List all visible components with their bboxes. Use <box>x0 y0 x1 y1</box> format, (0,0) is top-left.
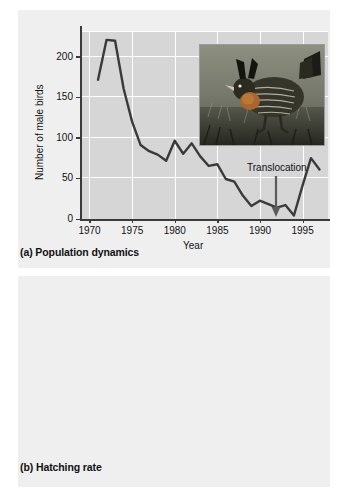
x-tick-a-1980 <box>175 219 176 223</box>
y-tick-a-0 <box>76 219 80 220</box>
translocation-annotation-label: Translocation <box>247 162 307 173</box>
translocation-arrow-icon <box>269 176 283 218</box>
x-axis-line-a <box>80 219 330 221</box>
line-path-male-birds <box>98 40 319 216</box>
x-axis-title-a: Year <box>183 240 203 251</box>
caption-panel-a: (a) Population dynamics <box>20 246 139 258</box>
y-ticklabel-a-200: 200 <box>42 51 73 62</box>
x-tick-a-1990 <box>260 219 261 223</box>
x-ticklabel-a-1980: 1980 <box>159 225 190 236</box>
x-ticklabel-a-1990: 1990 <box>245 225 276 236</box>
y-ticklabel-a-100: 100 <box>42 132 73 143</box>
y-tick-a-50 <box>76 178 80 179</box>
y-axis-title-a: Number of male birds <box>34 84 45 180</box>
y-axis-line-a <box>80 26 82 221</box>
x-tick-a-1985 <box>217 219 218 223</box>
population-line-series <box>81 32 328 219</box>
y-ticklabel-a-150: 150 <box>42 91 73 102</box>
x-tick-a-1995 <box>303 219 304 223</box>
x-ticklabel-a-1975: 1975 <box>117 225 148 236</box>
x-ticklabel-a-1995: 1995 <box>287 225 318 236</box>
y-tick-a-100 <box>76 137 80 138</box>
y-tick-a-200 <box>76 56 80 57</box>
panel-a-population-dynamics: Translocation 0 50 100 150 200 1970 1975… <box>18 10 330 268</box>
y-ticklabel-a-50: 50 <box>42 172 73 183</box>
x-ticklabel-a-1985: 1985 <box>202 225 233 236</box>
x-tick-a-1975 <box>132 219 133 223</box>
x-tick-a-1970 <box>89 219 90 223</box>
y-tick-a-150 <box>76 97 80 98</box>
y-ticklabel-a-0: 0 <box>42 213 73 224</box>
x-ticklabel-a-1970: 1970 <box>74 225 105 236</box>
caption-panel-b: (b) Hatching rate <box>20 461 102 473</box>
figure-prairie-chicken: Translocation 0 50 100 150 200 1970 1975… <box>0 0 343 497</box>
panel-b-hatching-rate: 30 40 50 60 70 80 90 100 1970–'74 '75–'7… <box>18 276 330 487</box>
